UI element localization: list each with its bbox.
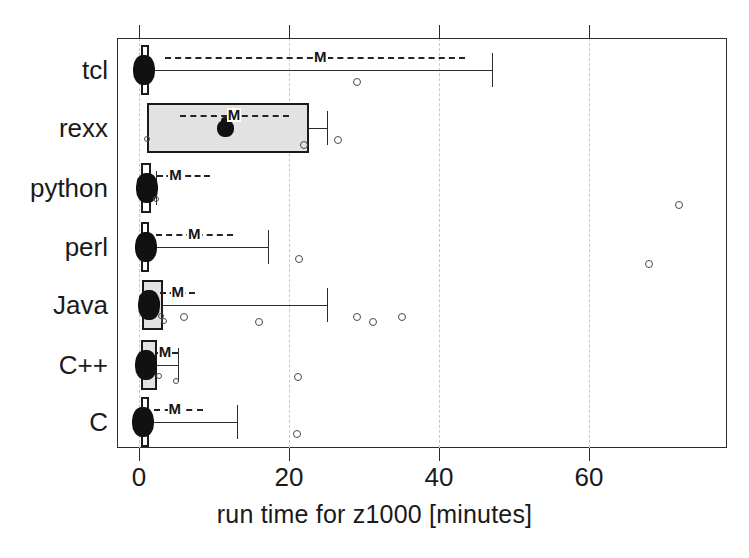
mean-marker-label: M — [187, 227, 202, 241]
mean-marker-label: M — [171, 285, 186, 299]
outlier-point — [300, 141, 308, 149]
outlier-point — [255, 318, 263, 326]
data-point — [141, 421, 149, 429]
mean-marker-label: M — [158, 345, 173, 359]
whisker-line — [140, 247, 268, 248]
outlier-point — [675, 201, 683, 209]
x-tick-label-20: 20 — [249, 463, 329, 491]
gridline-x-20 — [289, 38, 290, 448]
whisker-cap-high — [327, 288, 328, 322]
tick-top-0 — [139, 25, 140, 39]
y-label-tcl: tcl — [0, 55, 108, 85]
mean-marker-label: M — [168, 402, 183, 416]
data-point — [152, 299, 160, 307]
outlier-point — [398, 313, 406, 321]
outlier-point — [353, 78, 361, 86]
boxplot-figure: 0204060 tclrexxpythonperlJavaC++C MMMMMM… — [0, 0, 749, 558]
tick-bottom-40 — [439, 448, 440, 461]
y-label-python: python — [0, 173, 108, 203]
outlier-point — [353, 313, 361, 321]
outlier-point — [144, 136, 150, 142]
y-label-rexx: rexx — [0, 113, 108, 143]
mean-marker-label: M — [168, 168, 183, 182]
x-axis-title: run time for z1000 [minutes] — [0, 500, 749, 529]
whisker-cap-high — [492, 53, 493, 87]
y-label-perl: perl — [0, 232, 108, 262]
gridline-x-40 — [439, 38, 440, 448]
tick-top-60 — [589, 25, 590, 39]
mean-marker-label: M — [313, 50, 328, 64]
data-point — [143, 69, 151, 77]
y-label-c: C — [0, 407, 108, 437]
tick-bottom-60 — [589, 448, 590, 461]
tick-top-40 — [439, 25, 440, 39]
outlier-point — [293, 430, 301, 438]
data-point — [147, 354, 155, 362]
plot-frame — [117, 38, 727, 448]
outlier-point — [153, 196, 159, 202]
data-point — [144, 187, 152, 195]
x-tick-label-40: 40 — [399, 463, 479, 491]
whisker-line — [140, 70, 492, 71]
whisker-cap-high — [178, 348, 179, 382]
tick-bottom-0 — [139, 448, 140, 461]
whisker-line — [141, 305, 327, 306]
data-point — [145, 236, 153, 244]
whisker-cap-high — [327, 111, 328, 145]
data-point — [144, 364, 152, 372]
y-label-cpp: C++ — [0, 350, 108, 380]
mean-range-line — [157, 175, 210, 177]
whisker-line — [140, 422, 237, 423]
mean-marker-label: M — [227, 108, 242, 122]
y-label-java: Java — [0, 290, 108, 320]
whisker-cap-high — [268, 230, 269, 264]
x-tick-label-60: 60 — [549, 463, 629, 491]
x-tick-label-0: 0 — [99, 463, 179, 491]
outlier-point — [369, 318, 377, 326]
whisker-cap-high — [237, 405, 238, 439]
outlier-point — [645, 260, 653, 268]
gridline-x-60 — [589, 38, 590, 448]
outlier-point — [294, 373, 302, 381]
data-point — [143, 246, 151, 254]
tick-top-20 — [289, 25, 290, 39]
outlier-point — [295, 255, 303, 263]
outlier-point — [156, 373, 162, 379]
tick-bottom-20 — [289, 448, 290, 461]
outlier-point — [180, 313, 188, 321]
outlier-point — [161, 318, 167, 324]
outlier-point — [334, 136, 342, 144]
